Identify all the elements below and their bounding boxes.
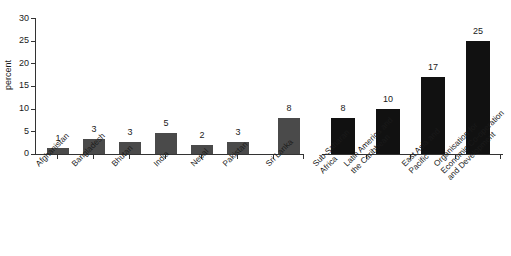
- y-tick-mark-20: [31, 63, 36, 64]
- y-tick-label-10: 10: [7, 104, 29, 113]
- x-tick-mark-1: [57, 155, 58, 159]
- x-tick-mark-2: [93, 155, 94, 159]
- y-tick-mark-15: [31, 86, 36, 87]
- y-tick-label-25: 25: [7, 36, 29, 45]
- bar-value-sub-saharan-africa: 8: [331, 104, 355, 113]
- bar-value-india: 5: [155, 119, 177, 128]
- y-tick-label-30: 30: [7, 14, 29, 23]
- bar-value-pakistan: 3: [227, 128, 249, 137]
- bar-value-nepal: 2: [191, 131, 213, 140]
- x-tick-mark-12: [500, 155, 501, 159]
- bar-value-bhutan: 3: [119, 128, 141, 137]
- y-tick-label-0: 0: [7, 149, 29, 158]
- bar-value-sri-lanka: 8: [278, 104, 300, 113]
- bar-value-latin-america-caribbean: 10: [376, 95, 400, 104]
- y-tick-label-5: 5: [7, 127, 29, 136]
- bar-chart: 30 25 20 15 10 5 0 percent 1 3 3 5 2 3 8: [0, 0, 511, 256]
- y-tick-mark-10: [31, 109, 36, 110]
- y-axis-title: percent: [3, 49, 13, 101]
- y-tick-mark-5: [31, 131, 36, 132]
- y-tick-mark-30: [31, 18, 36, 19]
- x-tick-mark-8: [303, 155, 304, 159]
- bar-value-oecd: 25: [466, 27, 490, 36]
- bar-value-east-asia-pacific: 17: [421, 63, 445, 72]
- y-tick-mark-25: [31, 41, 36, 42]
